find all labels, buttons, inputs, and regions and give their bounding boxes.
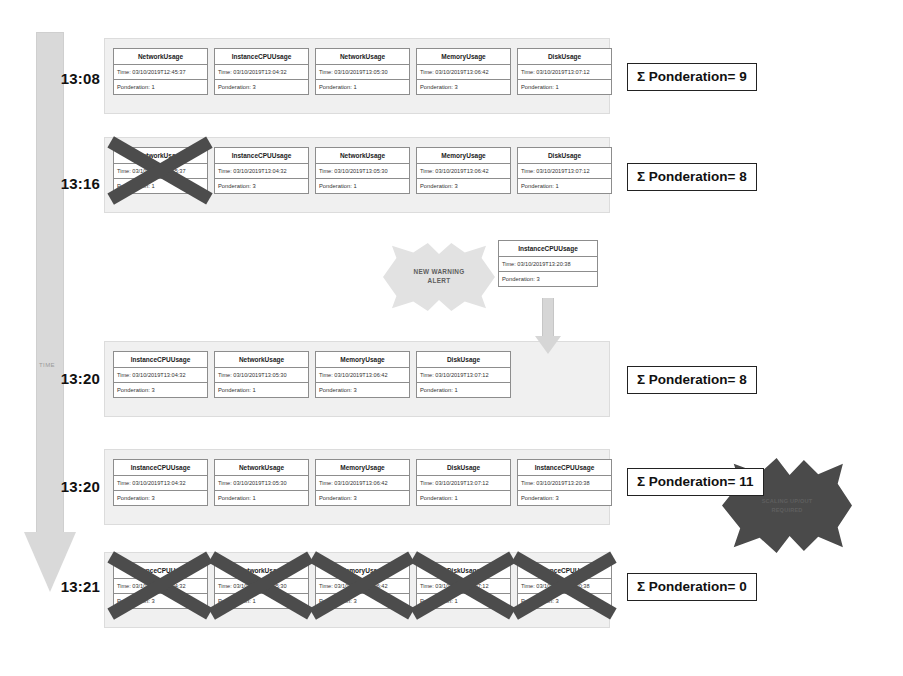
event-card-title: InstanceCPUUsage [114, 352, 207, 368]
event-card: NetworkUsageTime: 03/10/2019T12:45:37Pon… [113, 147, 208, 194]
new-warning-alert-text: NEW WARNING ALERT [414, 268, 465, 285]
event-card-ponderation: Ponderation: 3 [417, 80, 510, 94]
event-card-time: Time: 03/10/2019T13:06:42 [316, 579, 409, 594]
event-card-ponderation: Ponderation: 3 [417, 179, 510, 193]
event-card: InstanceCPUUsageTime: 03/10/2019T13:20:3… [517, 459, 612, 506]
event-card-ponderation: Ponderation: 3 [316, 594, 409, 608]
event-card: MemoryUsageTime: 03/10/2019T13:06:42Pond… [416, 48, 511, 95]
ponderation-sum-row-4: Σ Ponderation= 11 [627, 468, 764, 496]
event-window-row-4: InstanceCPUUsageTime: 03/10/2019T13:04:3… [104, 449, 610, 525]
incoming-event-title: InstanceCPUUsage [499, 241, 597, 257]
time-tick-5: 13:21 [42, 578, 100, 595]
event-card-time: Time: 03/10/2019T13:07:12 [417, 368, 510, 383]
event-card-list-1: NetworkUsageTime: 03/10/2019T12:45:37Pon… [113, 48, 612, 95]
event-card: NetworkUsageTime: 03/10/2019T13:05:30Pon… [315, 147, 410, 194]
event-card-title: InstanceCPUUsage [215, 148, 308, 164]
event-card-ponderation: Ponderation: 1 [417, 383, 510, 397]
event-card-title: MemoryUsage [316, 352, 409, 368]
event-card-title: DiskUsage [417, 352, 510, 368]
event-card-title: NetworkUsage [114, 49, 207, 65]
event-card-time: Time: 03/10/2019T13:06:42 [417, 164, 510, 179]
incoming-event-arrow [535, 298, 561, 356]
event-card-title: InstanceCPUUsage [518, 563, 611, 579]
event-card-title: NetworkUsage [114, 148, 207, 164]
event-card-title: NetworkUsage [215, 460, 308, 476]
scaling-required-text: SCALING UP/OUT REQUIRED [762, 497, 813, 513]
event-card-ponderation: Ponderation: 1 [316, 80, 409, 94]
event-card-time: Time: 03/10/2019T13:07:12 [518, 164, 611, 179]
ponderation-sum-row-5: Σ Ponderation= 0 [627, 573, 757, 601]
event-card-time: Time: 03/10/2019T13:07:12 [417, 476, 510, 491]
event-card-ponderation: Ponderation: 1 [114, 179, 207, 193]
incoming-event-card: InstanceCPUUsage Time: 03/10/2019T13:20:… [498, 240, 598, 287]
event-window-row-5: InstanceCPUUsageTime: 03/10/2019T13:04:3… [104, 552, 610, 628]
scaling-required-line1: SCALING UP/OUT [762, 498, 813, 504]
time-tick-4: 13:20 [42, 478, 100, 495]
new-warning-alert-line1: NEW WARNING [414, 268, 465, 275]
event-card-time: Time: 03/10/2019T13:04:32 [114, 476, 207, 491]
event-card-time: Time: 03/10/2019T13:07:12 [518, 65, 611, 80]
event-card: InstanceCPUUsageTime: 03/10/2019T13:04:3… [214, 48, 309, 95]
event-card: NetworkUsageTime: 03/10/2019T13:05:30Pon… [214, 562, 309, 609]
event-card: InstanceCPUUsageTime: 03/10/2019T13:04:3… [113, 562, 208, 609]
event-card-time: Time: 03/10/2019T13:05:30 [215, 579, 308, 594]
time-axis-label: TIME [39, 362, 55, 368]
event-card-time: Time: 03/10/2019T13:20:38 [518, 579, 611, 594]
event-card-ponderation: Ponderation: 3 [518, 594, 611, 608]
event-card-title: MemoryUsage [316, 563, 409, 579]
event-card-title: InstanceCPUUsage [215, 49, 308, 65]
scaling-required-line2: REQUIRED [771, 507, 802, 513]
time-tick-2: 13:16 [42, 175, 100, 192]
event-card-title: NetworkUsage [316, 49, 409, 65]
event-card-title: DiskUsage [518, 148, 611, 164]
event-card: MemoryUsageTime: 03/10/2019T13:06:42Pond… [315, 351, 410, 398]
event-card: NetworkUsageTime: 03/10/2019T13:05:30Pon… [315, 48, 410, 95]
event-card-ponderation: Ponderation: 3 [114, 383, 207, 397]
event-card-time: Time: 03/10/2019T13:06:42 [417, 65, 510, 80]
event-card-title: InstanceCPUUsage [114, 563, 207, 579]
event-card-ponderation: Ponderation: 1 [215, 383, 308, 397]
event-card: DiskUsageTime: 03/10/2019T13:07:12Ponder… [517, 48, 612, 95]
event-window-row-1: NetworkUsageTime: 03/10/2019T12:45:37Pon… [104, 38, 610, 114]
event-card: MemoryUsageTime: 03/10/2019T13:06:42Pond… [416, 147, 511, 194]
ponderation-sum-row-1: Σ Ponderation= 9 [627, 63, 757, 91]
event-card-time: Time: 03/10/2019T13:05:30 [316, 164, 409, 179]
event-card-time: Time: 03/10/2019T13:05:30 [215, 476, 308, 491]
event-card-time: Time: 03/10/2019T13:07:12 [417, 579, 510, 594]
event-card-ponderation: Ponderation: 3 [518, 491, 611, 505]
arrow-head [535, 336, 561, 354]
event-card-title: NetworkUsage [215, 563, 308, 579]
event-card-list-3: InstanceCPUUsageTime: 03/10/2019T13:04:3… [113, 351, 511, 398]
event-card-ponderation: Ponderation: 3 [316, 383, 409, 397]
event-card-ponderation: Ponderation: 1 [114, 80, 207, 94]
event-card-time: Time: 03/10/2019T13:04:32 [215, 164, 308, 179]
event-card-list-5: InstanceCPUUsageTime: 03/10/2019T13:04:3… [113, 562, 612, 609]
event-card-ponderation: Ponderation: 1 [215, 594, 308, 608]
event-card-ponderation: Ponderation: 1 [518, 179, 611, 193]
event-card-time: Time: 03/10/2019T13:06:42 [316, 476, 409, 491]
new-warning-alert-line2: ALERT [428, 277, 451, 284]
event-card-time: Time: 03/10/2019T12:45:37 [114, 65, 207, 80]
event-card-time: Time: 03/10/2019T13:05:30 [316, 65, 409, 80]
event-card-ponderation: Ponderation: 1 [215, 491, 308, 505]
event-card-time: Time: 03/10/2019T13:05:30 [215, 368, 308, 383]
event-card: InstanceCPUUsageTime: 03/10/2019T13:20:3… [517, 562, 612, 609]
event-card: DiskUsageTime: 03/10/2019T13:07:12Ponder… [517, 147, 612, 194]
event-card-ponderation: Ponderation: 1 [316, 179, 409, 193]
event-card: InstanceCPUUsageTime: 03/10/2019T13:04:3… [214, 147, 309, 194]
event-card-title: NetworkUsage [316, 148, 409, 164]
event-card-list-2: NetworkUsageTime: 03/10/2019T12:45:37Pon… [113, 147, 612, 194]
event-card-title: InstanceCPUUsage [518, 460, 611, 476]
event-card-ponderation: Ponderation: 3 [215, 80, 308, 94]
event-card-title: MemoryUsage [316, 460, 409, 476]
new-warning-alert-burst: NEW WARNING ALERT [383, 243, 495, 311]
event-card: InstanceCPUUsageTime: 03/10/2019T13:04:3… [113, 459, 208, 506]
event-card-time: Time: 03/10/2019T13:04:32 [114, 579, 207, 594]
event-card-title: MemoryUsage [417, 148, 510, 164]
ponderation-sum-row-2: Σ Ponderation= 8 [627, 163, 757, 191]
event-card-ponderation: Ponderation: 1 [417, 594, 510, 608]
event-card: DiskUsageTime: 03/10/2019T13:07:12Ponder… [416, 459, 511, 506]
event-card: NetworkUsageTime: 03/10/2019T13:05:30Pon… [214, 459, 309, 506]
event-card: NetworkUsageTime: 03/10/2019T13:05:30Pon… [214, 351, 309, 398]
event-card-time: Time: 03/10/2019T12:45:37 [114, 164, 207, 179]
